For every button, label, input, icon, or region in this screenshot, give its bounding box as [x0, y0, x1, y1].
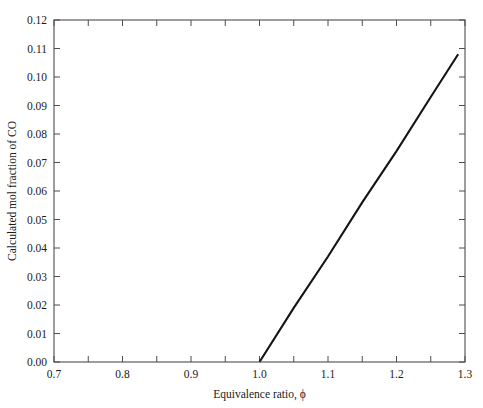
plot-area-background: [54, 20, 465, 362]
y-axis-title: Calculated mol fraction of CO: [6, 121, 18, 261]
y-tick-label: 0.12: [27, 14, 47, 26]
x-tick-label: 1.0: [252, 368, 267, 380]
y-tick-label: 0.02: [27, 299, 47, 311]
x-tick-label: 0.9: [184, 368, 199, 380]
x-tick-label: 1.2: [389, 368, 404, 380]
x-tick-label: 1.3: [458, 368, 473, 380]
y-tick-label: 0.09: [27, 100, 47, 112]
x-tick-label: 0.7: [47, 368, 62, 380]
line-chart: 0.000.010.020.030.040.050.060.070.080.09…: [0, 0, 483, 408]
y-tick-label: 0.07: [27, 157, 47, 169]
x-tick-label: 0.8: [115, 368, 130, 380]
y-tick-label: 0.11: [27, 43, 47, 55]
y-tick-label: 0.04: [27, 242, 47, 254]
chart-figure: 0.000.010.020.030.040.050.060.070.080.09…: [0, 0, 483, 408]
y-tick-label: 0.00: [27, 356, 47, 368]
y-tick-label: 0.06: [27, 185, 47, 197]
y-tick-label: 0.10: [27, 71, 47, 83]
y-tick-label: 0.05: [27, 214, 47, 226]
y-tick-label: 0.01: [27, 328, 47, 340]
x-axis-title: Equivalence ratio, ϕ: [213, 388, 306, 401]
x-tick-label: 1.1: [321, 368, 336, 380]
y-tick-label: 0.08: [27, 128, 47, 140]
y-tick-label: 0.03: [27, 271, 47, 283]
